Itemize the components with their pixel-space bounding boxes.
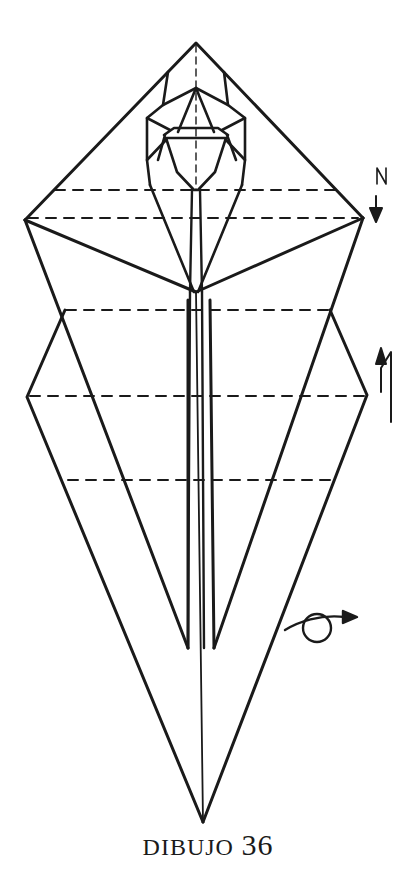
turn-over-icon bbox=[285, 611, 357, 642]
figure-caption: DIBUJO 36 bbox=[0, 828, 416, 862]
origami-diagram bbox=[0, 0, 416, 876]
right-flap bbox=[203, 218, 367, 822]
outer-top-kite bbox=[25, 43, 363, 292]
caption-number: 36 bbox=[241, 828, 273, 861]
caption-word: DIBUJO bbox=[143, 834, 234, 860]
center-spine bbox=[188, 190, 204, 822]
inner-v bbox=[188, 300, 214, 648]
arrow-down-icon bbox=[370, 168, 386, 222]
arrow-up-icon bbox=[376, 348, 391, 422]
